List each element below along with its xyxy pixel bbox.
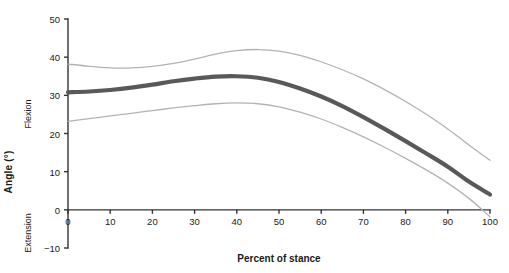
x-tick-label: 20 bbox=[147, 216, 158, 227]
chart-figure: Angle (°) Flexion Extension Percent of s… bbox=[0, 0, 509, 273]
x-tick-label: 40 bbox=[232, 216, 243, 227]
curve-mean-curve bbox=[68, 76, 490, 194]
chart-curves bbox=[68, 50, 490, 217]
x-tick-label: 0 bbox=[65, 216, 70, 227]
y-axis-extension-label: Extension bbox=[23, 213, 33, 253]
y-axis-title: Angle (°) bbox=[3, 150, 14, 193]
y-axis-flexion-label: Flexion bbox=[23, 100, 33, 129]
x-tick-label: 30 bbox=[189, 216, 200, 227]
y-tick-label: 40 bbox=[49, 52, 60, 63]
x-axis-title: Percent of stance bbox=[237, 253, 320, 264]
x-tick-label: 50 bbox=[274, 216, 285, 227]
x-tick-label: 70 bbox=[358, 216, 369, 227]
line-chart-plot bbox=[0, 0, 509, 273]
x-tick-label: 60 bbox=[316, 216, 327, 227]
y-tick-label: 50 bbox=[49, 14, 60, 25]
curve-lower-band bbox=[68, 103, 490, 217]
curve-upper-band bbox=[68, 50, 490, 161]
y-tick-label: 0 bbox=[55, 204, 60, 215]
x-tick-label: 80 bbox=[400, 216, 411, 227]
y-tick-label: 30 bbox=[49, 90, 60, 101]
x-tick-label: 100 bbox=[482, 216, 498, 227]
y-tick-label: 20 bbox=[49, 128, 60, 139]
y-tick-label: 10 bbox=[49, 166, 60, 177]
x-tick-label: 90 bbox=[443, 216, 454, 227]
chart-axes bbox=[64, 19, 490, 248]
x-tick-label: 10 bbox=[105, 216, 116, 227]
y-tick-label: −10 bbox=[44, 243, 60, 254]
